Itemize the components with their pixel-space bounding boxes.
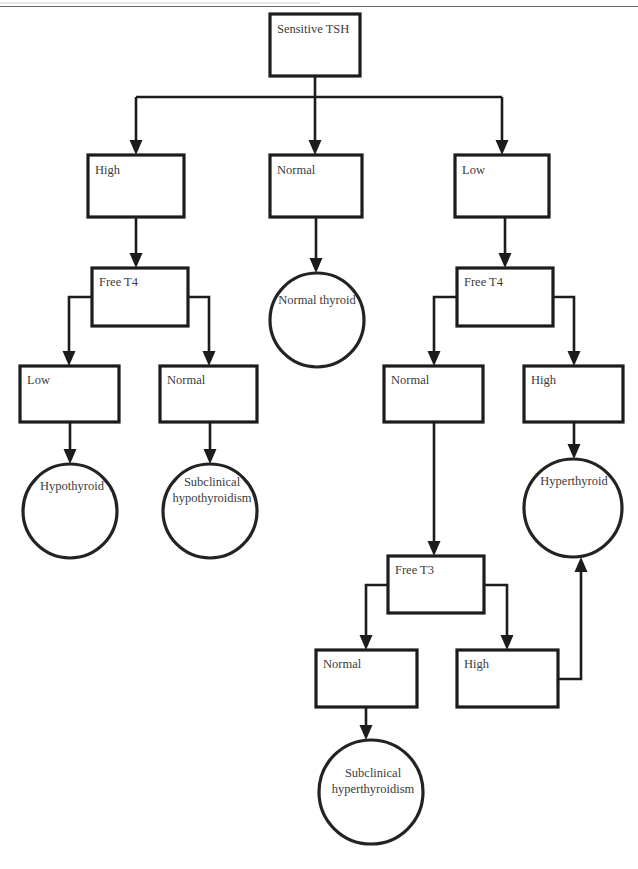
node-hyperthyroid-label: Hyperthyroid [540,474,608,488]
arrowhead-low-hypothyroid [64,449,77,464]
node-sensitive-tsh-label: Sensitive TSH [277,22,349,36]
node-hyperthyroid[interactable]: Hyperthyroid [524,459,622,557]
edge-ft4right-to-high [553,297,574,351]
edge-ft4left-to-low [69,297,92,351]
flowchart-canvas: Sensitive TSH High Normal Low Free T4 [0,0,638,869]
node-free-t4-left[interactable]: Free T4 [92,268,188,326]
node-ft4-left-normal-label: Normal [167,373,206,387]
node-normal-thyroid-label: Normal thyroid [278,293,356,307]
arrowhead-ft4right-high [568,351,581,366]
node-sensitive-tsh[interactable]: Sensitive TSH [270,14,360,76]
node-free-t4-right-label: Free T4 [464,275,504,289]
node-ft4-right-normal-label: Normal [391,373,430,387]
node-ft4-left-normal[interactable]: Normal [160,366,257,422]
edge-ft3high-to-hyperthyroid [558,572,581,679]
arrowhead-ft3high-hyperthyroid [575,557,588,572]
node-subclinical-hypothyroidism-label-line2: hypothyroidism [172,491,251,505]
edge-ft4left-to-normal [188,297,209,351]
arrowhead-normal-subclinhypo [204,449,217,464]
node-subclinical-hyperthyroidism-label-line2: hyperthyroidism [332,782,415,796]
arrowhead-high-hyperthyroid [568,444,581,459]
node-free-t4-left-label: Free T4 [99,275,139,289]
node-normal-thyroid[interactable]: Normal thyroid [270,273,364,367]
arrowhead-ft4left-normal [203,351,216,366]
node-tsh-normal[interactable]: Normal [270,155,362,217]
thyroid-flowchart-svg: Sensitive TSH High Normal Low Free T4 [0,0,638,869]
arrowhead-low-ft4right [499,253,512,268]
node-normal-thyroid-shape[interactable] [270,273,364,367]
arrowhead-normal-ft3 [428,541,441,556]
arrowhead-ft4right-normal [428,351,441,366]
arrowhead-ft3-normal [360,635,373,650]
node-tsh-high[interactable]: High [88,155,184,217]
node-layer: Sensitive TSH High Normal Low Free T4 [20,14,623,844]
arrowhead-ft3normal-subclinhyper [360,725,373,740]
node-ft3-normal[interactable]: Normal [316,650,417,707]
node-tsh-high-label: High [95,163,121,177]
arrowhead-tsh-low [496,140,509,155]
arrowhead-tsh-normal [309,140,322,155]
node-ft4-left-low[interactable]: Low [20,366,119,422]
node-free-t3[interactable]: Free T3 [388,556,484,613]
node-hypothyroid[interactable]: Hypothyroid [23,464,117,558]
node-tsh-normal-label: Normal [277,163,316,177]
node-subclinical-hypothyroidism[interactable]: Subclinical hypothyroidism [163,464,257,558]
edge-ft3-to-high [484,585,507,635]
arrowhead-high-ft4left [130,253,143,268]
node-free-t4-right[interactable]: Free T4 [457,268,553,326]
node-ft4-left-low-label: Low [27,373,50,387]
edge-ft3-to-normal [366,585,388,635]
arrowhead-ft3-high [501,635,514,650]
node-ft3-high[interactable]: High [457,650,558,707]
node-ft4-right-high-label: High [531,373,557,387]
node-subclinical-hypothyroidism-label-line1: Subclinical [184,475,241,489]
node-tsh-low[interactable]: Low [455,155,549,217]
edge-ft4right-to-normal [434,297,457,351]
node-subclinical-hyperthyroidism-label-line1: Subclinical [345,766,402,780]
arrowhead-tsh-high [130,140,143,155]
arrowhead-ft4left-low [63,351,76,366]
node-hypothyroid-label: Hypothyroid [40,479,105,493]
node-ft4-right-high[interactable]: High [524,366,623,422]
node-ft4-right-normal[interactable]: Normal [384,366,483,422]
node-ft3-high-label: High [464,657,490,671]
node-subclinical-hyperthyroidism[interactable]: Subclinical hyperthyroidism [319,740,423,844]
node-ft3-normal-label: Normal [323,657,362,671]
arrowhead-normal-normalthyroid [310,258,323,273]
node-tsh-low-label: Low [462,163,485,177]
node-free-t3-label: Free T3 [395,563,434,577]
